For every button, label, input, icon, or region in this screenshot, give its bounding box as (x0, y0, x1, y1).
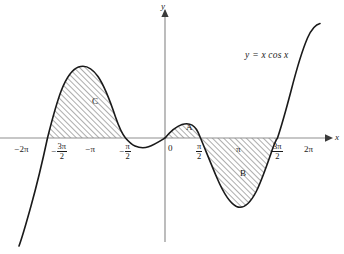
fraction-denominator: 2 (125, 151, 131, 161)
fraction-numerator: 3π (57, 142, 68, 151)
figure-container: −2π − 3π 2 −π − π 2 0 π 2 π 3π 2 2π (0, 0, 344, 254)
x-tick-label-2pi: 2π (304, 145, 313, 154)
fraction: π 2 (196, 142, 202, 160)
fraction: π 2 (125, 142, 131, 160)
fraction: 3π 2 (272, 142, 283, 160)
x-tick-label-neg-2pi: −2π (14, 145, 29, 154)
function-plot (0, 0, 344, 254)
fraction-numerator: π (196, 142, 202, 151)
fraction-denominator: 2 (272, 151, 283, 161)
x-tick-label-pi: π (236, 145, 241, 154)
equation-annotation: y = x cos x (245, 51, 289, 61)
region-label-c: C (92, 97, 98, 106)
region-label-a: A (186, 123, 193, 132)
fraction-numerator: 3π (272, 142, 283, 151)
y-axis-label: y (161, 2, 165, 11)
x-tick-label-neg-pi: −π (85, 145, 95, 154)
fraction: 3π 2 (57, 142, 68, 160)
fraction-numerator: π (125, 142, 131, 151)
x-tick-label-3pi-over-2: 3π 2 (272, 142, 283, 160)
tick-text: 0 (168, 143, 173, 153)
x-axis-label: x (335, 133, 339, 142)
fraction-denominator: 2 (196, 151, 202, 161)
shaded-region-c (48, 66, 126, 138)
tick-text: π (91, 144, 96, 154)
x-axis-arrow-icon (325, 134, 333, 142)
tick-text: π (236, 144, 241, 154)
tick-text: 2π (304, 144, 313, 154)
fraction-denominator: 2 (57, 151, 68, 161)
x-tick-label-zero: 0 (168, 144, 173, 153)
x-tick-label-neg-pi-over-2: − π 2 (119, 142, 131, 160)
x-tick-label-neg-3pi-over-2: − 3π 2 (51, 142, 67, 160)
shaded-region-a (165, 124, 201, 138)
region-label-b: B (240, 169, 246, 178)
tick-text: 2π (20, 144, 29, 154)
x-tick-label-pi-over-2: π 2 (196, 142, 202, 160)
